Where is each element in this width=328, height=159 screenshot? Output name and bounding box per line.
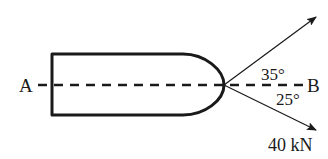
angle-label-lower: 25° bbox=[276, 90, 300, 109]
angle-label-upper: 35° bbox=[261, 65, 285, 84]
force-arrow-lower bbox=[224, 85, 316, 130]
label-b: B bbox=[307, 75, 320, 96]
force-diagram: A B 35° 25° 40 kN bbox=[0, 0, 328, 159]
force-magnitude-label: 40 kN bbox=[268, 135, 313, 155]
label-a: A bbox=[19, 75, 33, 96]
